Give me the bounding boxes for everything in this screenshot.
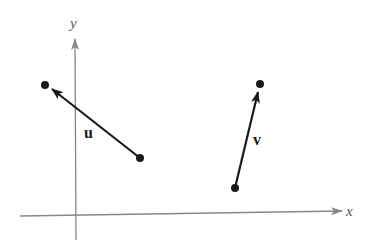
vector-diagram: x y u v [0,0,372,248]
vector-u-head-point [41,81,49,89]
y-axis: y [68,15,77,240]
vector-u-tail-point [136,154,144,162]
vector-v: v [231,80,264,192]
vector-v-label: v [253,131,261,148]
vector-u-label: u [84,124,93,141]
x-axis: x [20,203,353,219]
y-axis-label: y [68,15,77,31]
vector-v-head-point [256,80,264,88]
vector-v-tail-point [231,184,239,192]
x-axis-label: x [345,203,353,219]
vector-u: u [41,81,144,162]
